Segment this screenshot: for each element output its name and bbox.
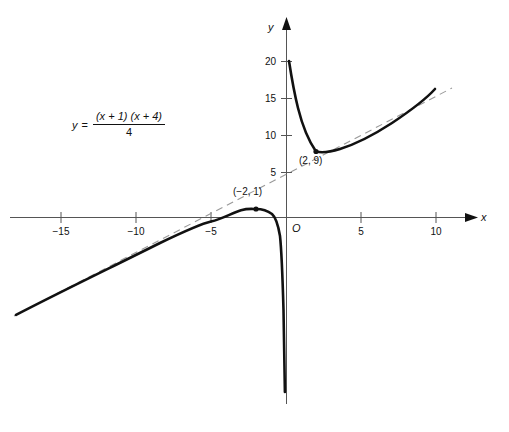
x-tick-label--15: −15	[41, 226, 81, 237]
x-tick-label--5: −5	[191, 226, 231, 237]
curve-right-branch	[289, 61, 435, 152]
y-axis-label: y	[268, 21, 274, 33]
x-axis-label: x	[481, 211, 487, 223]
point-marker-min	[313, 149, 318, 154]
equation-label: y = (x + 1) (x + 4) 4	[72, 110, 165, 139]
point-label-max: (−2, 1)	[233, 186, 262, 197]
x-tick-label-5: 5	[341, 226, 381, 237]
equation-denominator: 4	[126, 125, 132, 139]
y-tick-label-5: 5	[252, 167, 276, 178]
x-axis	[10, 212, 478, 223]
x-axis-arrow	[465, 213, 478, 222]
y-tick-label-20: 20	[252, 56, 276, 67]
x-tick-label--10: −10	[116, 226, 156, 237]
equation-numerator: (x + 1) (x + 4)	[93, 110, 165, 125]
y-tick-label-10: 10	[252, 130, 276, 141]
point-marker-max	[253, 206, 258, 211]
equation-equals: =	[82, 119, 88, 131]
y-tick-label-15: 15	[252, 93, 276, 104]
y-axis-arrow	[282, 17, 291, 30]
origin-label: O	[292, 222, 301, 234]
point-label-min: (2, 9)	[299, 155, 322, 166]
equation-fraction: (x + 1) (x + 4) 4	[93, 110, 165, 139]
figure-canvas: y = (x + 1) (x + 4) 4 x y O −15 −10 −5 5…	[0, 0, 509, 432]
x-tick-label-10: 10	[416, 226, 456, 237]
equation-lhs: y	[72, 119, 78, 131]
